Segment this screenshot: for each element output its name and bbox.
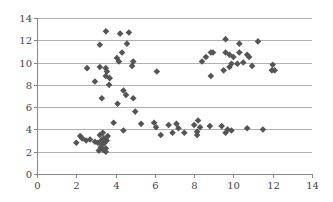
data-point-diamond-icon — [181, 129, 188, 136]
y-tick-label: 12 — [19, 35, 32, 46]
data-point-diamond-icon — [132, 108, 139, 115]
data-point-diamond-icon — [138, 121, 145, 128]
y-tick-label: 14 — [19, 13, 32, 24]
data-point-diamond-icon — [97, 64, 104, 71]
y-tick-label: 6 — [26, 102, 32, 113]
data-point-diamond-icon — [120, 127, 127, 134]
x-tick-label: 14 — [306, 180, 319, 191]
x-tick-label: 10 — [227, 180, 240, 191]
x-tick-label: 6 — [152, 180, 158, 191]
data-point-diamond-icon — [218, 123, 225, 130]
x-tick-label: 0 — [34, 180, 40, 191]
y-axis-ticks: 02468101214 — [19, 13, 37, 180]
data-point-diamond-icon — [114, 101, 121, 108]
data-point-diamond-icon — [103, 28, 110, 35]
data-point-diamond-icon — [157, 132, 164, 139]
data-point-diamond-icon — [84, 65, 91, 72]
x-axis-ticks: 02468101214 — [34, 174, 319, 191]
axes — [37, 18, 312, 175]
data-point-diamond-icon — [110, 119, 117, 126]
data-point-diamond-icon — [220, 67, 227, 74]
y-tick-label: 2 — [26, 147, 32, 158]
data-point-diamond-icon — [165, 122, 172, 129]
x-tick-label: 2 — [73, 180, 79, 191]
data-point-diamond-icon — [195, 117, 202, 124]
data-point-diamond-icon — [191, 122, 198, 129]
data-point-diamond-icon — [207, 123, 214, 130]
y-tick-label: 4 — [26, 124, 32, 135]
y-tick-label: 8 — [26, 80, 32, 91]
data-point-diamond-icon — [99, 95, 106, 102]
data-point-diamond-icon — [236, 49, 243, 56]
x-tick-label: 12 — [267, 180, 280, 191]
data-point-diamond-icon — [169, 129, 176, 136]
x-tick-label: 8 — [191, 180, 197, 191]
data-point-diamond-icon — [106, 82, 113, 89]
data-point-diamond-icon — [124, 40, 131, 47]
data-point-diamond-icon — [97, 41, 104, 48]
x-tick-label: 4 — [113, 180, 119, 191]
scatter-chart: 02468101214 02468101214 — [0, 0, 333, 202]
data-point-diamond-icon — [117, 30, 124, 37]
data-point-diamond-icon — [255, 38, 262, 45]
data-point-diamond-icon — [126, 29, 133, 36]
data-point-diamond-icon — [130, 95, 137, 102]
data-point-diamond-icon — [92, 78, 99, 85]
y-tick-label: 0 — [26, 169, 32, 180]
data-point-diamond-icon — [73, 140, 80, 147]
data-point-diamond-icon — [208, 73, 215, 80]
data-point-diamond-icon — [260, 126, 267, 133]
data-points — [73, 28, 278, 155]
data-point-diamond-icon — [234, 60, 241, 67]
data-point-diamond-icon — [240, 59, 247, 66]
data-point-diamond-icon — [119, 49, 126, 56]
data-point-diamond-icon — [269, 62, 276, 69]
data-point-diamond-icon — [194, 132, 201, 139]
data-point-diamond-icon — [222, 36, 229, 43]
data-point-diamond-icon — [244, 125, 251, 132]
data-point-diamond-icon — [154, 68, 161, 75]
data-point-diamond-icon — [236, 40, 243, 47]
data-point-diamond-icon — [203, 54, 210, 61]
y-tick-label: 10 — [19, 58, 32, 69]
